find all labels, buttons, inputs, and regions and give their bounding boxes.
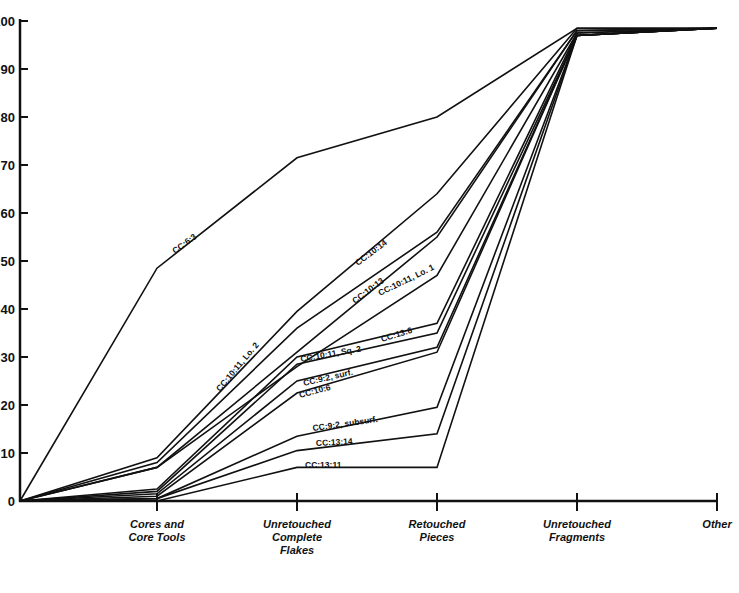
series-label: CC:10:14 (353, 237, 389, 267)
x-tick-label: UnretouchedFragments (543, 518, 611, 543)
y-tick-label: 0 (8, 494, 15, 509)
x-axis: Cores andCore ToolsUnretouchedCompleteFl… (19, 493, 732, 556)
series-line (20, 28, 717, 501)
x-tick-label: Cores andCore Tools (128, 518, 185, 543)
series-line (20, 28, 717, 501)
series-label: CC:13:11 (305, 460, 342, 470)
series-lines (20, 28, 717, 501)
y-tick-label: 50 (1, 254, 15, 269)
y-axis: 0102030405060708090100 (0, 14, 28, 509)
y-tick-label: 80 (1, 110, 15, 125)
y-tick-label: 60 (1, 206, 15, 221)
series-line (20, 28, 717, 501)
cumulative-line-chart: 0102030405060708090100 Cores andCore Too… (0, 0, 739, 593)
y-tick-label: 100 (0, 14, 15, 29)
x-tick-label: UnretouchedCompleteFlakes (263, 518, 331, 556)
series-label: CC:6:3 (170, 231, 198, 255)
y-tick-label: 90 (1, 62, 15, 77)
series-label: CC:10:11, Sq. 2 (300, 343, 362, 364)
y-tick-label: 10 (1, 446, 15, 461)
series-label: CC:9:2, subsurf. (312, 414, 378, 433)
series-label: CC:13:14 (316, 436, 354, 448)
series-line (20, 28, 717, 501)
series-label: CC:13:6 (380, 325, 414, 344)
series-line (20, 28, 717, 501)
series-line (20, 28, 717, 501)
y-tick-label: 70 (1, 158, 15, 173)
series-line (20, 28, 717, 501)
series-line (20, 28, 717, 501)
series-line (20, 28, 717, 501)
y-tick-label: 40 (1, 302, 15, 317)
series-line (20, 28, 717, 501)
x-tick-label: Other (702, 518, 732, 530)
y-tick-label: 20 (1, 398, 15, 413)
series-line (20, 28, 717, 501)
x-tick-label: RetouchedPieces (409, 518, 466, 543)
y-tick-label: 30 (1, 350, 15, 365)
series-line (20, 28, 717, 501)
